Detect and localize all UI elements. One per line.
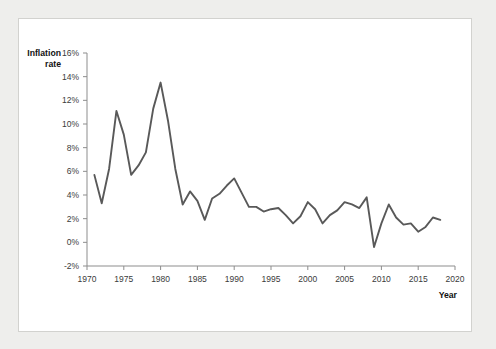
y-axis-tick-label: 4% [67, 190, 80, 200]
x-axis-title: Year [439, 290, 458, 300]
y-axis-tick-label: 16% [62, 48, 79, 58]
y-axis-tick-label: 10% [62, 119, 79, 129]
y-axis-tick-label: 14% [62, 72, 79, 82]
x-axis-tick-label: 1980 [151, 274, 170, 284]
x-axis-tick-label: 1990 [225, 274, 244, 284]
chart-screenshot: -2%0%2%4%6%8%10%12%14%16%197019751980198… [0, 0, 496, 349]
y-axis-title-line2: rate [45, 59, 61, 69]
x-axis-tick-label: 2020 [446, 274, 465, 284]
y-axis-tick-label: 0% [67, 237, 80, 247]
x-axis-tick-label: 2000 [298, 274, 317, 284]
y-axis-title-line1: Inflation [27, 48, 61, 58]
chart-plot-area: -2%0%2%4%6%8%10%12%14%16%197019751980198… [19, 19, 473, 333]
inflation-rate-line-chart: -2%0%2%4%6%8%10%12%14%16%197019751980198… [19, 19, 473, 333]
y-axis-tick-label: 6% [67, 166, 80, 176]
x-axis-tick-label: 2005 [335, 274, 354, 284]
x-axis-tick-label: 1970 [78, 274, 97, 284]
x-axis-tick-label: 1995 [262, 274, 281, 284]
x-axis-tick-label: 1975 [114, 274, 133, 284]
y-axis-tick-label: -2% [64, 261, 80, 271]
y-axis-tick-label: 2% [67, 214, 80, 224]
x-axis-tick-label: 2010 [372, 274, 391, 284]
x-axis-tick-label: 1985 [188, 274, 207, 284]
chart-panel: -2%0%2%4%6%8%10%12%14%16%197019751980198… [18, 18, 472, 332]
data-series-line [94, 83, 440, 247]
x-axis-tick-label: 2015 [409, 274, 428, 284]
y-axis-tick-label: 12% [62, 95, 79, 105]
y-axis-tick-label: 8% [67, 143, 80, 153]
